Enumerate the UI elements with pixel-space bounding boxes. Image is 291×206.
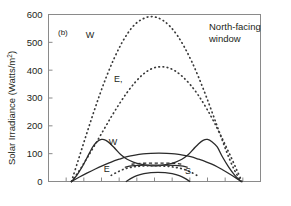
y-axis-title-group: Solar Irradiance (Watts/m2) [6, 51, 18, 165]
annotation-line-2: window [208, 33, 241, 44]
y-axis-title: Solar Irradiance (Watts/m2) [6, 51, 18, 165]
series-line-2 [71, 139, 241, 181]
series-line-4 [126, 172, 190, 181]
series-label-0: W [86, 30, 95, 40]
series-line-7 [111, 166, 197, 176]
y-axis-tick-labels: 0100200300400500600 [27, 9, 43, 187]
y-tick-label: 100 [27, 148, 43, 159]
y-tick-label: 400 [27, 65, 43, 76]
series-line-6 [132, 163, 183, 164]
x-axis-tick-marks [66, 178, 243, 182]
y-tick-label: 200 [27, 120, 43, 131]
chart-svg: Solar Irradiance (Watts/m2) 010020030040… [0, 0, 291, 206]
series-label-2: W [109, 137, 118, 147]
y-axis-tick-marks [49, 15, 53, 182]
solar-irradiance-chart: Solar Irradiance (Watts/m2) 010020030040… [0, 0, 291, 206]
series-label-3: E [104, 164, 110, 174]
panel-label: (b) [58, 28, 68, 37]
y-tick-label: 300 [27, 92, 43, 103]
series-label-4: S [185, 166, 191, 176]
annotation-line-1: North-facing [209, 21, 261, 32]
y-tick-label: 600 [27, 9, 43, 20]
series-label-1: E, [114, 74, 123, 84]
y-tick-label: 0 [37, 176, 42, 187]
series-line-3 [71, 153, 241, 181]
y-tick-label: 500 [27, 37, 43, 48]
